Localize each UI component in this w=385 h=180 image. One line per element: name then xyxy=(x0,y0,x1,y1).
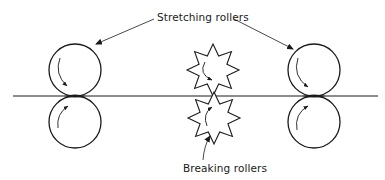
top-breaking-roller xyxy=(187,44,239,96)
stretching-rollers-label: Stretching rollers xyxy=(157,11,249,23)
breaking-leader xyxy=(203,136,210,160)
rotation-arrow-icon xyxy=(296,58,308,87)
rotation-arrow-icon xyxy=(296,106,308,130)
rotation-arrow-icon xyxy=(58,58,67,86)
breaking-rollers-label: Breaking rollers xyxy=(183,162,267,174)
right-bottom-roller xyxy=(288,96,340,148)
left-top-roller xyxy=(49,44,101,96)
left-bottom-roller xyxy=(49,96,101,148)
stretching-leader-right xyxy=(234,19,293,49)
rotation-arrow-icon xyxy=(58,106,68,128)
stretching-leader-left xyxy=(96,19,154,44)
breaking-rollers xyxy=(187,44,240,144)
right-top-roller xyxy=(288,44,340,96)
bottom-breaking-roller xyxy=(188,92,240,144)
roller-diagram xyxy=(0,0,385,180)
